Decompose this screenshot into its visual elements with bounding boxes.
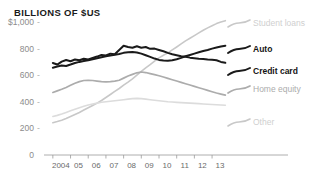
y-tick-label: 400 bbox=[20, 97, 34, 107]
x-tick-label: 13 bbox=[216, 161, 225, 170]
y-tick-label: $1,000 bbox=[8, 17, 34, 27]
x-tick-label: 08 bbox=[127, 161, 136, 170]
legend-swatch bbox=[228, 119, 250, 126]
legend-swatch bbox=[228, 86, 250, 93]
x-tick-label: 12 bbox=[198, 161, 207, 170]
legend-label-student-loans: Student loans bbox=[253, 18, 305, 28]
legend-swatch bbox=[228, 46, 250, 53]
x-tick-label: 09 bbox=[145, 161, 154, 170]
legend-swatch bbox=[228, 20, 250, 27]
series-line-other bbox=[53, 98, 226, 116]
series-line-home-equity bbox=[53, 72, 226, 95]
x-tick-label: 06 bbox=[92, 161, 101, 170]
y-tick-dash: - bbox=[37, 44, 40, 54]
x-axis: 2004050607080910111213 bbox=[44, 155, 288, 170]
chart-legend: Student loansAutoCredit cardHome equityO… bbox=[228, 18, 305, 127]
y-tick-dash: - bbox=[37, 97, 40, 107]
legend-label-credit-card: Credit card bbox=[253, 66, 298, 76]
y-tick-dash: - bbox=[37, 70, 40, 80]
y-tick-label: 0 bbox=[29, 150, 34, 160]
legend-label-home-equity: Home equity bbox=[253, 84, 301, 94]
legend-label-other: Other bbox=[253, 117, 274, 127]
x-tick-label: 05 bbox=[74, 161, 83, 170]
x-tick-label: 2004 bbox=[52, 161, 70, 170]
y-tick-label: 800 bbox=[20, 44, 34, 54]
y-tick-dash: - bbox=[37, 123, 40, 133]
y-tick-label: 600 bbox=[20, 70, 34, 80]
x-tick-label: 10 bbox=[163, 161, 172, 170]
legend-label-auto: Auto bbox=[253, 44, 272, 54]
chart-container: BILLIONS OF $US $1,000-800-600-400-200-0… bbox=[0, 0, 314, 182]
legend-swatch bbox=[228, 68, 250, 75]
series-line-auto bbox=[53, 46, 226, 68]
x-tick-label: 07 bbox=[109, 161, 118, 170]
line-chart: $1,000-800-600-400-200-0 200405060708091… bbox=[0, 0, 314, 182]
y-tick-dash: - bbox=[37, 17, 40, 27]
x-tick-label: 11 bbox=[181, 161, 190, 170]
y-tick-label: 200 bbox=[20, 123, 34, 133]
y-axis: $1,000-800-600-400-200-0 bbox=[8, 17, 40, 160]
series-lines bbox=[53, 21, 226, 123]
